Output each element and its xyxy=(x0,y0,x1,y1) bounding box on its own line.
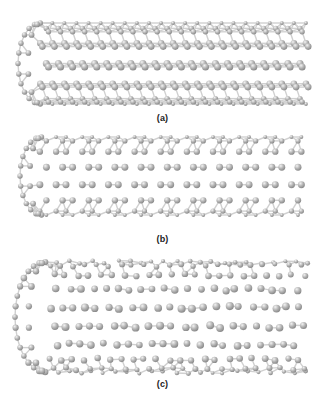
carbon-atom xyxy=(240,323,247,330)
carbon-atom xyxy=(231,285,239,293)
carbon-atom xyxy=(17,283,23,289)
carbon-atom xyxy=(167,357,173,363)
carbon-atom xyxy=(276,273,282,279)
carbon-atom xyxy=(117,259,121,263)
panel-c: (c) xyxy=(0,0,325,404)
carbon-atom xyxy=(205,273,212,280)
carbon-atom xyxy=(280,341,287,348)
carbon-atom xyxy=(140,356,146,362)
carbon-atom xyxy=(161,259,165,263)
carbon-atom xyxy=(251,273,257,279)
carbon-atom xyxy=(259,261,265,267)
carbon-atom xyxy=(140,304,148,312)
carbon-atom xyxy=(283,259,287,263)
carbon-atom xyxy=(51,323,58,330)
carbon-atom xyxy=(90,259,94,263)
carbon-atom xyxy=(182,324,189,331)
carbon-atom xyxy=(33,359,39,365)
carbon-atom xyxy=(86,323,93,330)
carbon-atom xyxy=(52,285,60,293)
carbon-atom xyxy=(294,259,298,263)
carbon-atom xyxy=(33,268,39,274)
carbon-atom xyxy=(180,366,185,371)
carbon-atom xyxy=(87,366,92,371)
carbon-atom xyxy=(192,366,198,372)
carbon-atom xyxy=(167,322,174,329)
carbon-atom xyxy=(241,273,247,279)
carbon-atom xyxy=(128,262,133,267)
carbon-atom xyxy=(115,305,123,313)
carbon-atom xyxy=(167,262,172,267)
carbon-atom xyxy=(213,302,221,310)
carbon-atom xyxy=(243,366,249,372)
carbon-atom xyxy=(247,262,253,268)
carbon-atom xyxy=(263,272,270,279)
carbon-atom xyxy=(125,340,132,347)
carbon-atom xyxy=(211,371,215,375)
carbon-atom xyxy=(262,355,269,362)
carbon-atom xyxy=(219,366,225,372)
carbon-atom xyxy=(256,370,260,374)
carbon-atom xyxy=(79,371,83,375)
carbon-atom xyxy=(149,340,156,347)
carbon-atom xyxy=(76,340,83,347)
carbon-atom xyxy=(149,259,153,263)
carbon-atom xyxy=(277,365,282,370)
carbon-atom xyxy=(204,366,210,372)
carbon-atom xyxy=(184,340,191,347)
carbon-atom xyxy=(106,304,113,311)
carbon-atom xyxy=(227,272,233,278)
carbon-atom xyxy=(96,323,103,330)
carbon-atom xyxy=(115,285,122,292)
carbon-atom xyxy=(233,260,238,265)
carbon-atom xyxy=(133,273,139,279)
carbon-atom xyxy=(206,321,214,329)
carbon-atom xyxy=(289,322,296,329)
carbon-atom xyxy=(203,263,208,268)
carbon-atom xyxy=(155,272,162,279)
carbon-atom xyxy=(59,305,66,312)
carbon-atom xyxy=(67,369,71,373)
carbon-atom xyxy=(126,287,133,294)
carbon-atom xyxy=(12,314,18,320)
carbon-atom xyxy=(210,340,217,347)
carbon-atom xyxy=(48,263,53,268)
carbon-atom xyxy=(188,305,196,313)
carbon-atom xyxy=(279,287,286,294)
carbon-atom xyxy=(102,261,107,266)
carbon-atom xyxy=(215,261,221,267)
carbon-atom xyxy=(182,271,188,277)
carbon-atom xyxy=(113,341,120,348)
carbon-atom xyxy=(57,263,63,269)
carbon-atom xyxy=(166,303,173,310)
carbon-atom xyxy=(70,264,76,270)
carbon-atom xyxy=(77,261,82,266)
carbon-atom xyxy=(47,356,53,362)
carbon-atom xyxy=(28,345,34,351)
carbon-atom xyxy=(272,261,277,266)
carbon-atom xyxy=(230,367,235,372)
carbon-atom xyxy=(75,273,81,279)
carbon-atom xyxy=(137,286,144,293)
carbon-atom xyxy=(28,283,35,290)
carbon-atom xyxy=(81,303,89,311)
carbon-atom xyxy=(152,355,159,362)
carbon-atom xyxy=(178,261,184,267)
carbon-atom xyxy=(100,340,107,347)
carbon-atom xyxy=(302,366,307,371)
carbon-atom xyxy=(119,261,125,267)
carbon-atom xyxy=(54,342,62,350)
carbon-atom xyxy=(285,356,291,362)
carbon-atom xyxy=(26,325,32,331)
carbon-atom xyxy=(109,366,114,371)
carbon-atom xyxy=(198,286,205,293)
carbon-atom xyxy=(123,367,129,373)
carbon-atom xyxy=(21,275,28,282)
carbon-atom xyxy=(52,271,58,277)
carbon-atom xyxy=(235,303,242,310)
carbon-atom xyxy=(26,268,32,274)
carbon-atom xyxy=(170,365,175,370)
carbon-atom xyxy=(191,264,196,269)
carbon-atom xyxy=(244,342,251,349)
carbon-atom xyxy=(226,302,234,310)
